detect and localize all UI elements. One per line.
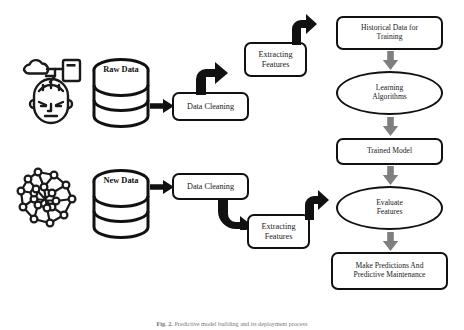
node-extracting-features-top: Extracting Features <box>244 42 307 77</box>
node-label-line2: Features <box>265 232 293 242</box>
node-trained-model: Trained Model <box>336 138 443 165</box>
figure-caption: Fig. 2. Predictive model building and it… <box>0 321 464 328</box>
node-historical-data: Historical Data for Training <box>336 16 443 50</box>
node-label-line2: Training <box>377 33 403 42</box>
figure-caption-text: Predictive model building and its deploy… <box>174 320 307 327</box>
node-data-cleaning-top: Data Cleaning <box>172 92 249 121</box>
figure-caption-prefix: Fig. 2. <box>157 320 173 327</box>
node-learning-algorithms: Learning Algorithms <box>336 71 443 115</box>
node-label-line2: Features <box>262 60 290 70</box>
node-label-line2: Features <box>377 208 403 217</box>
arrow-datacleaning-to-extracting-top <box>190 62 238 95</box>
arrow-extracting-to-evaluate <box>300 190 334 220</box>
arrow-evaluate-to-predictions <box>382 232 399 251</box>
arrow-rawdata-to-datacleaning <box>150 99 174 113</box>
arrow-trained-to-evaluate <box>382 166 399 185</box>
node-label-line1: Extracting <box>258 50 292 60</box>
node-evaluate-features: Evaluate Features <box>336 186 443 230</box>
node-label: Data Cleaning <box>187 102 234 112</box>
node-data-cleaning-bottom: Data Cleaning <box>172 173 249 200</box>
node-label: Trained Model <box>367 147 412 156</box>
node-make-predictions: Make Predictions And Predictive Maintena… <box>331 252 448 290</box>
node-label-line2: Predictive Maintenance <box>354 271 426 280</box>
arrow-learning-to-trained <box>382 117 399 136</box>
arrow-extracting-to-historical <box>287 14 323 45</box>
arrow-historical-to-learning <box>382 51 399 70</box>
database-label: New Data <box>91 176 151 185</box>
arrow-newdata-to-datacleaning <box>150 180 174 194</box>
database-label: Raw Data <box>91 65 151 74</box>
figure-canvas: Raw Data Data Cleaning Extracting Featur… <box>0 0 464 330</box>
node-label-line1: Extracting <box>261 222 295 232</box>
network-graph-icon <box>14 163 86 235</box>
node-label-line2: Algorithms <box>372 93 407 102</box>
database-raw-data: Raw Data <box>91 57 151 129</box>
node-label: Data Cleaning <box>187 182 234 192</box>
head-ai-cloud-icon <box>12 52 90 130</box>
database-new-data: New Data <box>91 168 151 240</box>
